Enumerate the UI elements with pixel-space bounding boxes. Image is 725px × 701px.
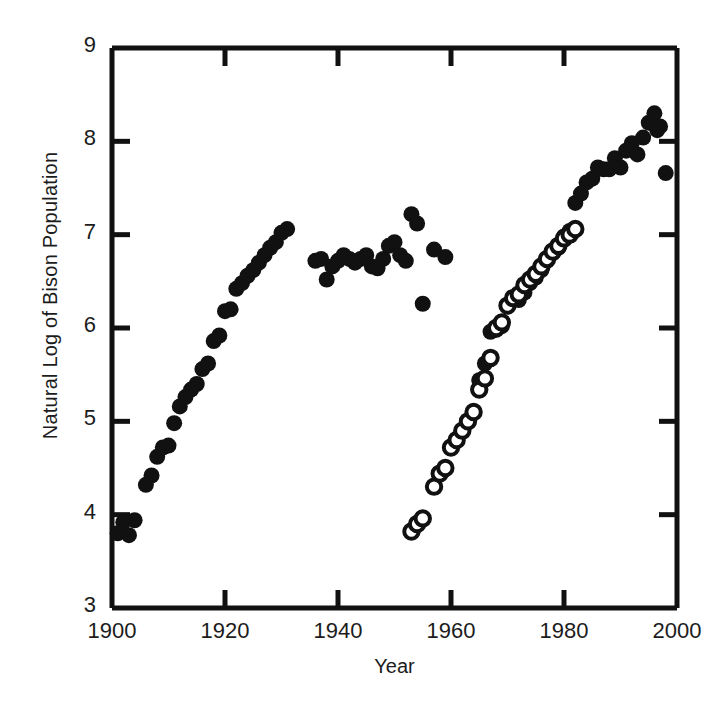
x-tick-marks — [225, 48, 564, 608]
x-tick-label-1920: 1920 — [170, 620, 280, 642]
series-open-circles — [404, 222, 582, 539]
data-point-open — [568, 222, 582, 236]
data-point-open — [416, 511, 430, 525]
data-point-open — [495, 315, 509, 329]
data-point-open — [483, 351, 497, 365]
data-point-filled — [200, 355, 216, 371]
data-point-filled — [121, 527, 137, 543]
y-tick-label-5: 5 — [56, 407, 96, 429]
data-point-filled — [161, 438, 177, 454]
data-point-open — [438, 461, 452, 475]
axis-frame — [112, 48, 677, 608]
data-point-filled — [166, 415, 182, 431]
data-point-filled — [613, 159, 629, 175]
series-filled-circles — [110, 105, 674, 543]
data-point-filled — [409, 215, 425, 231]
y-tick-label-9: 9 — [56, 34, 96, 56]
y-tick-label-4: 4 — [56, 501, 96, 523]
x-tick-label-1980: 1980 — [509, 620, 619, 642]
data-point-filled — [144, 467, 160, 483]
data-point-filled — [635, 130, 651, 146]
data-point-filled — [415, 296, 431, 312]
data-point-filled — [629, 146, 645, 162]
data-point-filled — [127, 512, 143, 528]
y-tick-label-8: 8 — [56, 127, 96, 149]
data-point-filled — [658, 165, 674, 181]
data-point-open — [466, 405, 480, 419]
x-tick-label-1940: 1940 — [283, 620, 393, 642]
y-tick-label-6: 6 — [56, 314, 96, 336]
data-point-filled — [211, 327, 227, 343]
data-point-filled — [652, 118, 668, 134]
data-point-filled — [279, 221, 295, 237]
y-tick-label-7: 7 — [56, 221, 96, 243]
data-point-open — [478, 371, 492, 385]
x-tick-label-2000: 2000 — [622, 620, 725, 642]
y-tick-label-3: 3 — [56, 594, 96, 616]
x-tick-label-1960: 1960 — [396, 620, 506, 642]
y-tick-marks — [112, 141, 677, 514]
bison-population-chart: Natural Log of Bison Population Year 345… — [0, 0, 725, 701]
data-point-filled — [223, 301, 239, 317]
data-point-filled — [189, 376, 205, 392]
x-tick-label-1900: 1900 — [57, 620, 167, 642]
plot-area — [0, 0, 725, 701]
data-point-filled — [437, 249, 453, 265]
data-point-filled — [398, 253, 414, 269]
